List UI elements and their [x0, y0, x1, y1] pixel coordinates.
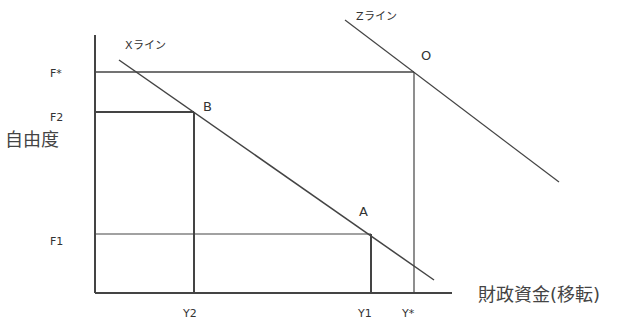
f-star-tick: F*	[50, 68, 62, 79]
f1-tick: F1	[50, 236, 63, 247]
f2-tick: F2	[50, 112, 63, 123]
x-axis-label: 財政資金(移転)	[478, 286, 600, 304]
point-b-label: B	[203, 100, 212, 113]
x-line-label: Xライン	[125, 40, 166, 51]
z-line-label: Zライン	[356, 11, 397, 22]
z-line	[345, 20, 559, 182]
point-o-label: O	[421, 49, 431, 62]
y1-tick: Y1	[358, 308, 372, 319]
diagram-canvas	[0, 0, 617, 322]
point-a-label: A	[359, 205, 368, 218]
y-axis-label: 自由度	[5, 131, 59, 149]
y2-tick: Y2	[183, 308, 197, 319]
x-line	[119, 60, 434, 280]
y-star-tick: Y*	[402, 308, 414, 319]
